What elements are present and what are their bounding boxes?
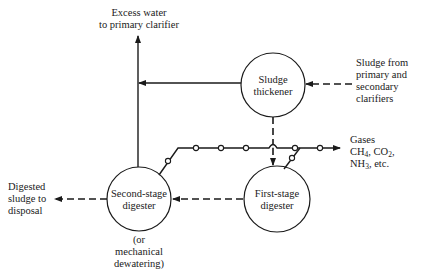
gases-line1: Gases — [350, 134, 395, 146]
sludge-from-line3: secondary — [356, 81, 408, 93]
second-stage-line2: digester — [104, 200, 174, 212]
mechanical-dewatering-label: (or mechanical dewatering) — [104, 234, 174, 270]
first-stage-line1: First-stage — [244, 188, 310, 200]
sludge-from-line1: Sludge from — [356, 57, 408, 69]
co-text: , CO — [368, 146, 388, 157]
digested-line3: disposal — [8, 205, 46, 217]
digested-line2: sludge to — [8, 193, 46, 205]
first-stage-line2: digester — [244, 200, 310, 212]
nh-text: NH — [350, 158, 365, 169]
thickener-line2: thickener — [241, 86, 305, 98]
excess-water-line1: Excess water — [88, 7, 190, 19]
sludge-from-line4: clarifiers — [356, 93, 408, 105]
second-stage-line1: Second-stage — [104, 188, 174, 200]
gases-label: Gases CH4, CO2, NH3, etc. — [350, 134, 395, 170]
gases-line2: CH4, CO2, — [350, 146, 395, 158]
second-stage-digester-label: Second-stage digester — [104, 188, 174, 212]
co-end: , — [392, 146, 395, 157]
gas-line — [159, 145, 340, 176]
gases-line3: NH3, etc. — [350, 158, 395, 170]
thickener-line1: Sludge — [241, 74, 305, 86]
mechanical-line2: mechanical — [104, 246, 174, 258]
mechanical-line1: (or — [104, 234, 174, 246]
mechanical-line3: dewatering) — [104, 258, 174, 270]
sludge-from-label: Sludge from primary and secondary clarif… — [356, 57, 408, 105]
sludge-thickener-label: Sludge thickener — [241, 74, 305, 98]
sludge-from-line2: primary and — [356, 69, 408, 81]
excess-water-label: Excess water to primary clarifier — [88, 7, 190, 31]
digested-sludge-label: Digested sludge to disposal — [8, 181, 46, 217]
ch-text: CH — [350, 146, 365, 157]
digested-line1: Digested — [8, 181, 46, 193]
nh-end: , etc. — [369, 158, 389, 169]
first-stage-digester-label: First-stage digester — [244, 188, 310, 212]
excess-water-line2: to primary clarifier — [88, 19, 190, 31]
